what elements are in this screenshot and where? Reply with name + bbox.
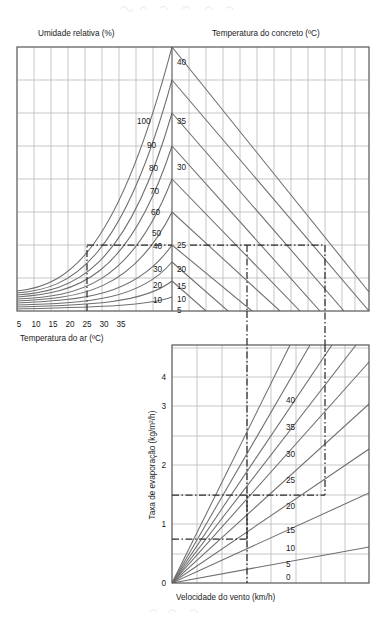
humidity-label-90: 90 xyxy=(147,141,157,150)
wind-label-5: 5 xyxy=(286,560,291,569)
wind-label-20: 20 xyxy=(286,502,296,511)
bottom-chart-y-tick-labels: 0 1 2 3 4 xyxy=(161,373,166,588)
humidity-curve-labels: 100 90 80 70 60 50 40 30 20 10 xyxy=(137,117,163,305)
x-tick-35: 35 xyxy=(116,320,126,329)
wind-label-40: 40 xyxy=(286,396,296,405)
humidity-label-20: 20 xyxy=(153,281,163,290)
concrete-label-10: 10 xyxy=(177,295,187,304)
wind-label-30: 30 xyxy=(286,450,296,459)
x-tick-15: 15 xyxy=(48,320,58,329)
y-tick-0: 0 xyxy=(161,579,166,588)
concrete-label-15: 15 xyxy=(177,282,187,291)
bottom-chart-frame xyxy=(172,345,369,583)
x-tick-10: 10 xyxy=(31,320,41,329)
bottom-chart-vertical-gridlines xyxy=(197,345,345,583)
humidity-curves xyxy=(17,47,172,309)
humidity-label-50: 50 xyxy=(152,229,162,238)
x-tick-20: 20 xyxy=(65,320,75,329)
concrete-temperature-labels: 40 35 30 25 20 15 10 5 xyxy=(177,58,187,315)
wind-label-25: 25 xyxy=(286,476,296,485)
humidity-label-10: 10 xyxy=(153,296,163,305)
top-chart-title-left: Umidade relativa (%) xyxy=(38,29,115,38)
concrete-label-25: 25 xyxy=(177,241,187,250)
y-tick-1: 1 xyxy=(161,520,166,529)
wind-label-0: 0 xyxy=(286,573,291,582)
humidity-label-70: 70 xyxy=(150,187,160,196)
wind-speed-lines xyxy=(172,345,369,583)
x-tick-5: 5 xyxy=(17,320,22,329)
humidity-label-80: 80 xyxy=(149,164,159,173)
humidity-label-30: 30 xyxy=(153,265,163,274)
y-tick-2: 2 xyxy=(161,461,166,470)
top-chart-title-right: Temperatura do concreto (ºC) xyxy=(212,29,320,38)
nomogram-svg: 100 90 80 70 60 50 40 30 20 10 40 xyxy=(0,0,387,625)
wind-label-35: 35 xyxy=(286,423,296,432)
wind-label-15: 15 xyxy=(286,526,296,535)
page-artifact-bottom xyxy=(150,610,198,614)
x-tick-25: 25 xyxy=(82,320,92,329)
concrete-label-35: 35 xyxy=(177,117,187,126)
concrete-label-30: 30 xyxy=(177,163,187,172)
y-tick-4: 4 xyxy=(161,373,166,382)
page-artifact xyxy=(120,6,233,11)
y-tick-3: 3 xyxy=(161,402,166,411)
top-chart-x-tick-labels: 5 10 15 20 25 30 35 xyxy=(17,320,126,329)
concrete-label-40: 40 xyxy=(177,58,187,67)
bottom-chart-ylabel: Taxa de evaporação (kg/m²/h) xyxy=(148,410,157,519)
humidity-label-60: 60 xyxy=(151,208,161,217)
x-tick-30: 30 xyxy=(99,320,109,329)
concrete-label-20: 20 xyxy=(177,265,187,274)
humidity-label-40: 40 xyxy=(153,242,163,251)
nomogram-figure: 100 90 80 70 60 50 40 30 20 10 40 xyxy=(0,0,387,625)
top-chart-xlabel: Temperatura do ar (ºC) xyxy=(20,334,104,343)
bottom-chart-xlabel: Velocidade do vento (km/h) xyxy=(176,593,275,602)
humidity-label-100: 100 xyxy=(137,117,151,126)
wind-label-10: 10 xyxy=(286,544,296,553)
